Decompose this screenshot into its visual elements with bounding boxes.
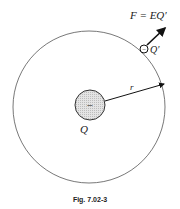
radius-arrow — [105, 84, 164, 101]
radius-label: r — [130, 82, 134, 92]
test-charge: − — [140, 45, 148, 54]
source-charge-sign: − — [86, 99, 93, 111]
test-charge-label: Q′ — [150, 44, 160, 55]
force-arrow — [147, 28, 165, 45]
source-charge: − — [75, 90, 105, 120]
figure-caption: Fig. 7.02-3 — [73, 196, 107, 204]
field-diagram: − Q r − Q′ F = EQ′ Fig. 7.02-3 — [0, 0, 180, 209]
test-charge-sign: − — [142, 46, 147, 54]
source-charge-label: Q — [80, 123, 88, 135]
force-label: F = EQ′ — [129, 9, 167, 21]
